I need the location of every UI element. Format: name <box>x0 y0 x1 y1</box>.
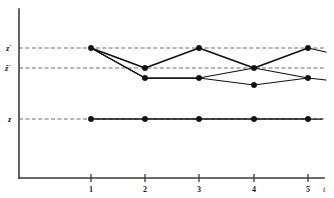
data-point <box>305 45 310 50</box>
data-point <box>196 116 201 121</box>
data-point <box>196 75 201 80</box>
data-point <box>251 65 256 70</box>
data-point <box>88 116 93 121</box>
y-label-z-prime: z' <box>5 43 11 54</box>
data-point <box>305 116 310 121</box>
x-tick-label-2: 2 <box>143 185 147 194</box>
series-group <box>91 48 326 119</box>
y-axis-labels-group: z' ẑ' z <box>4 43 12 125</box>
data-point <box>196 45 201 50</box>
x-axis-name: t <box>323 185 326 194</box>
line-chart-canvas: z' ẑ' z 1 2 3 4 5 t <box>0 0 334 198</box>
x-tick-label-4: 4 <box>252 185 256 194</box>
chart-figure: z' ẑ' z 1 2 3 4 5 t <box>0 0 334 198</box>
x-tick-label-5: 5 <box>306 185 310 194</box>
x-tick-label-1: 1 <box>89 185 93 194</box>
y-label-z: z <box>7 114 12 124</box>
data-point <box>251 82 256 87</box>
series-line-oscillating-lower <box>91 48 308 78</box>
data-point <box>142 75 147 80</box>
y-label-z-hat-prime: ẑ' <box>4 63 10 74</box>
markers-group <box>88 45 310 121</box>
data-point <box>305 75 310 80</box>
x-tick-labels-group: 1 2 3 4 5 <box>89 185 310 194</box>
data-point <box>142 116 147 121</box>
data-point <box>142 65 147 70</box>
x-tick-label-3: 3 <box>197 185 201 194</box>
data-point <box>251 116 256 121</box>
axes-group <box>19 9 324 178</box>
data-point <box>88 45 93 50</box>
series-line-oscillating-upper <box>91 48 308 68</box>
